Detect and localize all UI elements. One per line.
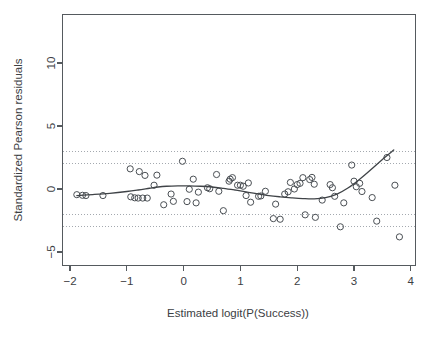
x-tick-label: 1 — [237, 275, 243, 287]
y-axis-title: Standardized Pearson residuals — [12, 58, 24, 221]
y-tick-label: 5 — [45, 123, 57, 129]
x-tick-label: 0 — [180, 275, 186, 287]
x-tick-label: 4 — [408, 275, 415, 287]
y-tick-label: −5 — [45, 245, 57, 258]
x-tick-label: −1 — [120, 275, 133, 287]
x-axis-title: Estimated logit(P(Success)) — [167, 307, 309, 319]
x-tick-label: −2 — [63, 275, 76, 287]
plot-background — [0, 0, 429, 340]
residual-plot-figure: −2−101234 −50510 Estimated logit(P(Succe… — [0, 0, 429, 340]
x-tick-label: 3 — [351, 275, 357, 287]
y-tick-label: 10 — [45, 57, 57, 70]
x-tick-label: 2 — [294, 275, 300, 287]
y-tick-label: 0 — [45, 186, 57, 192]
residual-scatter-plot: −2−101234 −50510 Estimated logit(P(Succe… — [0, 0, 429, 340]
